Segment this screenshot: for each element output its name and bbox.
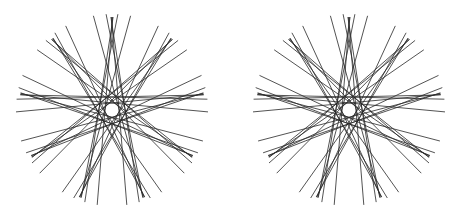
figure-stage bbox=[0, 0, 462, 219]
pattern-line bbox=[290, 38, 399, 192]
pattern-line bbox=[53, 38, 162, 192]
left-star-pattern bbox=[0, 0, 231, 219]
pattern-line bbox=[31, 75, 201, 156]
right-star-pattern bbox=[231, 0, 462, 219]
pattern-line bbox=[268, 75, 438, 156]
